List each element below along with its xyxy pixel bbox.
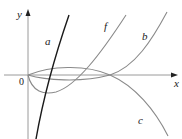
curve-a — [36, 15, 69, 139]
graph-figure: y x 0 a f b c — [0, 0, 182, 139]
curve-f — [28, 15, 126, 93]
x-axis-label: x — [173, 77, 179, 89]
curve-f-label: f — [104, 20, 109, 32]
y-axis-label: y — [16, 8, 22, 20]
curve-c-label: c — [138, 114, 143, 126]
curve-a-label: a — [45, 35, 51, 47]
y-axis-arrow-icon — [26, 9, 31, 16]
curve-b-label: b — [142, 30, 148, 42]
origin-label: 0 — [19, 76, 24, 87]
